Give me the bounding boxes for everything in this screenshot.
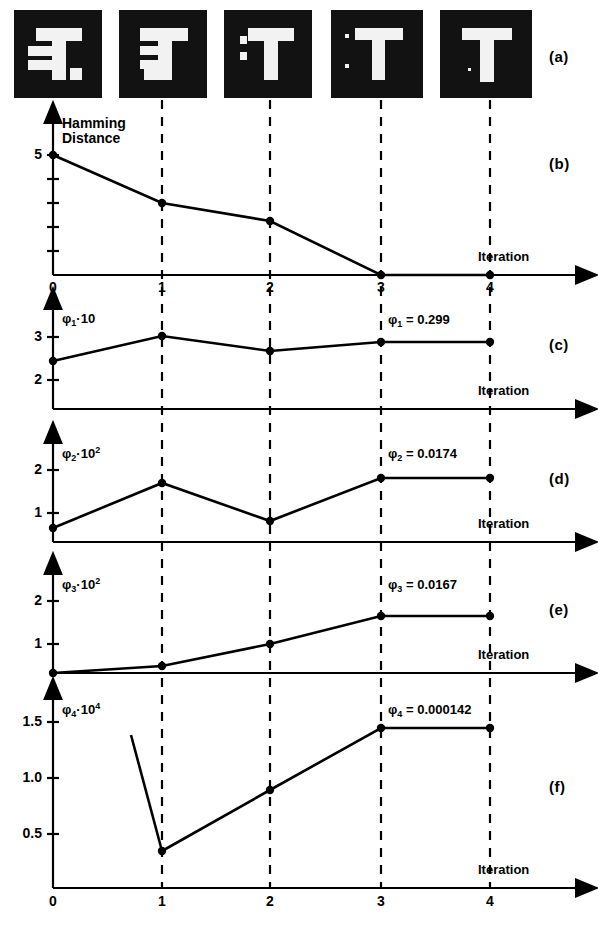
panel-b-series xyxy=(53,155,490,275)
panel-f-exp: 4 xyxy=(95,701,100,711)
panel-b-xtick-0: 0 xyxy=(43,279,63,295)
panel-d-ytick-1: 1 xyxy=(18,504,42,520)
panel-b-xtick-2: 2 xyxy=(260,279,280,295)
panel-f-scale: 10 xyxy=(81,702,95,717)
panel-c-x-axis-title: Iteration xyxy=(478,383,529,398)
panel-f-phi-sub: 4 xyxy=(71,709,76,719)
panel-b-markers xyxy=(49,151,494,279)
panel-b-xtick-1: 1 xyxy=(152,279,172,295)
panel-c-annotation: φ1 = 0.299 xyxy=(388,312,450,329)
panel-d-phi-sub: 2 xyxy=(71,453,76,463)
panel-b-y-axis-title-line2: Distance xyxy=(62,130,120,146)
panel-e-annot-value: 0.0167 xyxy=(417,577,457,592)
panel-d-annot-symbol: φ xyxy=(388,446,397,461)
panel-c-scale: 10 xyxy=(81,311,95,326)
panel-e-phi-symbol: φ xyxy=(62,577,71,592)
panel-f-xtick-3: 3 xyxy=(371,893,391,909)
figure-root: (a) (b) (c) (d) (e) (f) xyxy=(0,0,598,925)
panel-e-ytick-2: 2 xyxy=(18,592,42,608)
panel-f-ytick-15: 1.5 xyxy=(4,713,42,729)
panel-b-y-axis-title-line1: Hamming xyxy=(62,115,126,131)
panel-f-xtick-4: 4 xyxy=(480,893,500,909)
panel-e-phi-sub: 3 xyxy=(71,584,76,594)
panel-b-xtick-3: 3 xyxy=(371,279,391,295)
panel-e-annot-symbol: φ xyxy=(388,577,397,592)
panel-c-phi-sub: 1 xyxy=(71,318,76,328)
panel-b-x-axis-title: Iteration xyxy=(478,249,529,264)
panel-e-scale: 10 xyxy=(81,577,95,592)
panel-d-annot-value: 0.0174 xyxy=(417,446,457,461)
panel-d-exp: 2 xyxy=(95,445,100,455)
panel-e-annotation: φ3 = 0.0167 xyxy=(388,577,457,594)
panel-f-xtick-0: 0 xyxy=(43,893,63,909)
panel-e-exp: 2 xyxy=(95,576,100,586)
panel-c-ytick-2: 2 xyxy=(18,371,42,387)
panel-d-phi-symbol: φ xyxy=(62,446,71,461)
panel-f-ytick-05: 0.5 xyxy=(4,825,42,841)
panel-d-annot-sub: 2 xyxy=(397,453,402,463)
panel-b-xtick-4: 4 xyxy=(480,279,500,295)
panel-f-markers xyxy=(158,724,494,855)
panel-f-phi-symbol: φ xyxy=(62,702,71,717)
panel-f-ytick-10: 1.0 xyxy=(4,769,42,785)
panel-c-phi-symbol: φ xyxy=(62,311,71,326)
panel-d-scale: 10 xyxy=(81,446,95,461)
panel-d-y-axis-title: φ2·102 xyxy=(62,445,100,463)
panel-b-ytick-5: 5 xyxy=(18,146,42,162)
panel-f-annotation: φ4 = 0.000142 xyxy=(388,702,471,719)
panel-e-annot-sub: 3 xyxy=(397,584,402,594)
panel-f-axes xyxy=(47,700,575,888)
panel-e-x-axis-title: Iteration xyxy=(478,647,529,662)
panel-e-markers xyxy=(49,612,494,677)
panel-c-markers xyxy=(49,332,494,365)
panel-c-annot-value: 0.299 xyxy=(417,312,450,327)
panel-f-annot-sub: 4 xyxy=(397,709,402,719)
panel-f-xtick-2: 2 xyxy=(260,893,280,909)
panel-f-y-axis-title: φ4·104 xyxy=(62,701,100,719)
panel-c-y-axis-title: φ1·10 xyxy=(62,311,95,328)
panel-f-xtick-1: 1 xyxy=(152,893,172,909)
panel-c-annot-sub: 1 xyxy=(397,319,402,329)
panel-d-ytick-2: 2 xyxy=(18,461,42,477)
panel-f-offscale-segment xyxy=(131,735,162,851)
panel-c-ytick-3: 3 xyxy=(18,328,42,344)
panel-e-y-axis-title: φ3·102 xyxy=(62,576,100,594)
panel-f-annot-symbol: φ xyxy=(388,702,397,717)
panel-f-x-axis-title: Iteration xyxy=(478,862,529,877)
panel-d-annotation: φ2 = 0.0174 xyxy=(388,446,457,463)
guide-lines xyxy=(162,100,490,888)
panel-c-annot-symbol: φ xyxy=(388,312,397,327)
panel-f-annot-value: 0.000142 xyxy=(417,702,471,717)
panel-d-x-axis-title: Iteration xyxy=(478,516,529,531)
panel-b-y-axis-title: Hamming Distance xyxy=(62,116,126,146)
panel-e-ytick-1: 1 xyxy=(18,635,42,651)
panel-f-series xyxy=(162,728,490,851)
